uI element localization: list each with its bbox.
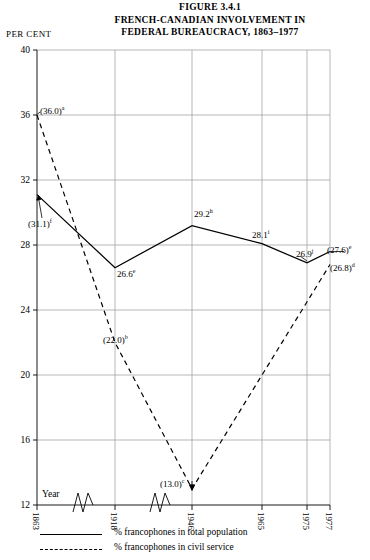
legend: % francophones in total population % fra… <box>26 527 356 557</box>
y-tick-label-36: 36 <box>4 110 30 120</box>
y-tick-marks <box>33 50 37 505</box>
axes <box>37 50 330 505</box>
data-label-28-1-superscript: i <box>268 229 270 235</box>
data-label-36-0-superscript: a <box>62 105 65 111</box>
data-label-22-0-value: (22.0) <box>103 335 125 345</box>
y-tick-label-24: 24 <box>4 305 30 315</box>
data-label-22-0: (22.0)b <box>103 334 128 345</box>
data-label-36-0-value: (36.0) <box>40 106 62 116</box>
data-label-26-6: 26.6e <box>117 268 135 279</box>
y-tick-label-40: 40 <box>4 45 30 55</box>
legend-swatch-solid-line <box>40 534 102 535</box>
legend-swatch-dashed-line <box>40 549 102 550</box>
data-label-27-6: (27.6)e <box>327 244 351 255</box>
y-tick-label-20: 20 <box>4 370 30 380</box>
data-label-29-2-superscript: h <box>210 208 213 214</box>
plot-canvas <box>0 0 370 560</box>
leader-lines <box>37 112 344 491</box>
legend-label-civil-service: % francophones in civil service <box>114 542 234 552</box>
data-label-13-0-value: (13.0) <box>160 479 182 489</box>
data-label-31-1-value: (31.1) <box>28 219 50 229</box>
y-tick-label-28: 28 <box>4 240 30 250</box>
legend-item-total-population: % francophones in total population <box>26 527 356 542</box>
data-label-26-8-value: (26.8) <box>330 263 352 273</box>
data-label-27-6-value: (27.6) <box>327 245 349 255</box>
data-label-26-6-value: 26.6 <box>117 269 133 279</box>
data-label-28-1-value: 28.1 <box>252 230 268 240</box>
data-label-26-9: 26.9j <box>296 248 313 259</box>
data-label-31-1: (31.1)f <box>28 218 52 229</box>
data-label-29-2: 29.2h <box>194 208 213 219</box>
figure-3-4-1: FIGURE 3.4.1 FRENCH-CANADIAN INVOLVEMENT… <box>0 0 370 560</box>
data-label-26-9-value: 26.9 <box>296 249 312 259</box>
y-tick-label-32: 32 <box>4 175 30 185</box>
data-label-26-8: (26.8)d <box>330 262 355 273</box>
data-label-31-1-superscript: f <box>50 218 52 224</box>
legend-item-civil-service: % francophones in civil service <box>26 542 356 557</box>
data-label-22-0-superscript: b <box>125 334 128 340</box>
axis-break-marks <box>73 493 170 512</box>
data-label-13-0: (13.0)c <box>160 478 184 489</box>
y-tick-label-12: 12 <box>4 500 30 510</box>
vertical-gridlines <box>115 50 330 505</box>
y-tick-label-16: 16 <box>4 435 30 445</box>
data-label-26-6-superscript: e <box>133 268 136 274</box>
data-label-36-0: (36.0)a <box>40 105 64 116</box>
data-label-13-0-superscript: c <box>182 478 185 484</box>
data-label-27-6-superscript: e <box>349 244 352 250</box>
series-civil-service-line <box>37 115 330 489</box>
legend-label-total-population: % francophones in total population <box>114 527 248 537</box>
data-label-26-8-superscript: d <box>352 262 355 268</box>
data-label-28-1: 28.1i <box>252 229 269 240</box>
data-label-29-2-value: 29.2 <box>194 209 210 219</box>
series-total-population-line <box>37 195 330 268</box>
x-axis-title: Year <box>42 489 60 499</box>
data-label-26-9-superscript: j <box>312 248 314 254</box>
